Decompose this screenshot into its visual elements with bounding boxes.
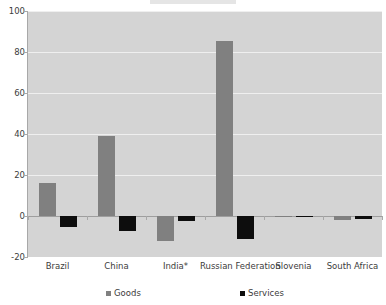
legend-swatch-icon: [106, 291, 111, 296]
legend-item-goods[interactable]: Goods: [106, 288, 141, 298]
clipped-title: [150, 0, 236, 4]
x-axis-label-south-africa: South Africa: [323, 261, 382, 271]
gridline: [28, 175, 382, 176]
gridline: [28, 11, 382, 12]
y-tick-label: 40: [1, 130, 25, 139]
bar-services-russian-federation[interactable]: [237, 216, 254, 239]
x-axis-separator: [146, 216, 147, 220]
chart-legend: Goods Services: [0, 288, 386, 300]
x-axis-label-brazil: Brazil: [28, 261, 87, 271]
y-tick-label: 60: [1, 89, 25, 98]
bar-goods-india[interactable]: [157, 216, 174, 241]
x-axis-separator: [382, 216, 383, 220]
legend-label: Goods: [114, 288, 141, 298]
legend-item-services[interactable]: Services: [240, 288, 284, 298]
y-tick-label: 0: [1, 212, 25, 221]
bar-goods-brazil[interactable]: [39, 183, 56, 216]
x-axis-separator: [87, 216, 88, 220]
legend-swatch-icon: [240, 291, 245, 296]
x-axis-separator: [205, 216, 206, 220]
bar-goods-south-africa[interactable]: [334, 216, 351, 220]
bar-services-south-africa[interactable]: [355, 216, 372, 219]
bar-chart: 100 80 60 40 20 0 -20 Brazil China India…: [0, 0, 386, 305]
y-axis-tick: [23, 257, 28, 258]
x-axis-label-slovenia: Slovenia: [264, 261, 323, 271]
x-axis-label-india: India*: [146, 261, 205, 271]
plot-inner: [28, 11, 382, 257]
bar-services-india[interactable]: [178, 216, 195, 221]
bar-services-china[interactable]: [119, 216, 136, 231]
bar-goods-slovenia[interactable]: [275, 216, 292, 217]
legend-label: Services: [248, 288, 284, 298]
y-tick-label: 20: [1, 171, 25, 180]
y-tick-label: 80: [1, 48, 25, 57]
y-axis-labels: 100 80 60 40 20 0 -20: [0, 0, 25, 305]
bar-goods-russian-federation[interactable]: [216, 41, 233, 216]
x-axis-separator: [28, 216, 29, 220]
bar-goods-china[interactable]: [98, 136, 115, 216]
y-tick-label: -20: [1, 253, 25, 262]
gridline: [28, 134, 382, 135]
x-axis-label-russian-federation: Russian Federation: [200, 261, 269, 271]
gridline: [28, 93, 382, 94]
x-axis-separator: [323, 216, 324, 220]
gridline: [28, 52, 382, 53]
y-tick-label: 100: [1, 7, 25, 16]
plot-area: [28, 11, 382, 257]
bar-services-brazil[interactable]: [60, 216, 77, 227]
bar-services-slovenia[interactable]: [296, 216, 313, 217]
x-axis-separator: [264, 216, 265, 220]
x-axis-label-china: China: [87, 261, 146, 271]
